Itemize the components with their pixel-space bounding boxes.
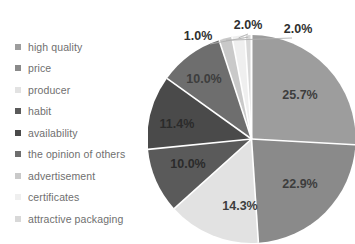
legend-swatch-icon — [15, 44, 21, 50]
slice-value-label-high-quality: 25.7% — [282, 88, 317, 102]
pie-chart-figure: high quality price producer habit availa… — [0, 0, 355, 244]
legend-swatch-icon — [15, 65, 21, 71]
callout-label-certificates: 2.0% — [234, 18, 263, 32]
callout-label-attractive-packaging: 1.0% — [184, 29, 213, 43]
legend-item-label: price — [28, 62, 51, 74]
legend-swatch-icon — [15, 151, 21, 157]
legend-item-price[interactable]: price — [0, 58, 145, 80]
slice-value-label-availability: 11.4% — [160, 117, 195, 131]
legend-swatch-icon — [15, 194, 21, 200]
legend-item-availability[interactable]: availability — [0, 122, 145, 144]
pie-svg: 25.7% 22.9% 14.3% 10.0% 11.4% 10.0% 1.0%… — [148, 0, 355, 244]
legend-item-label: advertisement — [28, 170, 95, 182]
legend-item-label: attractive packaging — [28, 213, 123, 225]
legend-swatch-icon — [15, 87, 21, 93]
legend-item-label: producer — [28, 84, 70, 96]
legend-item-advertisement[interactable]: advertisement — [0, 165, 145, 187]
legend-item-label: availability — [28, 127, 78, 139]
legend-item-the-opinion-of-others[interactable]: the opinion of others — [0, 144, 145, 166]
legend-swatch-icon — [15, 216, 21, 222]
slice-value-label-price: 22.9% — [282, 177, 317, 191]
legend-swatch-icon — [15, 130, 21, 136]
legend-swatch-icon — [15, 108, 21, 114]
callout-label-advertisement: 2.0% — [284, 22, 313, 36]
legend-item-high-quality[interactable]: high quality — [0, 36, 145, 58]
slice-value-label-habit: 10.0% — [186, 72, 221, 86]
legend-item-label: certificates — [28, 191, 79, 203]
slice-value-label-the-opinion-of-others: 10.0% — [170, 157, 205, 171]
chart-legend: high quality price producer habit availa… — [0, 36, 145, 230]
legend-item-habit[interactable]: habit — [0, 101, 145, 123]
legend-item-certificates[interactable]: certificates — [0, 187, 145, 209]
legend-item-producer[interactable]: producer — [0, 79, 145, 101]
slice-value-label-producer: 14.3% — [222, 199, 257, 213]
legend-item-attractive-packaging[interactable]: attractive packaging — [0, 208, 145, 230]
pie-plot-area: 25.7% 22.9% 14.3% 10.0% 11.4% 10.0% 1.0%… — [148, 0, 355, 244]
legend-item-label: habit — [28, 105, 51, 117]
legend-item-label: high quality — [28, 41, 82, 53]
legend-item-label: the opinion of others — [28, 148, 125, 160]
legend-swatch-icon — [15, 173, 21, 179]
